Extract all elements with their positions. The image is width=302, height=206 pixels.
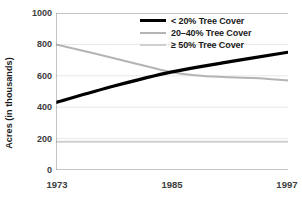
y-tick-label-0: 0	[18, 166, 52, 175]
series-lines	[56, 44, 288, 141]
legend-item-3: ≥ 50% Tree Cover	[140, 39, 272, 50]
y-tick-label-800: 800	[18, 40, 52, 49]
x-axis-tick-labels: 197319851997	[0, 180, 302, 196]
y-tick-label-400: 400	[18, 103, 52, 112]
x-tick-label-1985: 1985	[161, 180, 182, 190]
legend-line-lightgray-icon	[140, 44, 166, 46]
y-axis-tick-labels: 02004006008001000	[16, 0, 52, 206]
legend-line-gray-icon	[140, 32, 166, 34]
y-tick-label-600: 600	[18, 71, 52, 80]
x-tick-label-1973: 1973	[46, 180, 67, 190]
legend-item-2: 20–40% Tree Cover	[140, 27, 272, 38]
legend-item-1: < 20% Tree Cover	[140, 15, 272, 26]
y-tick-label-1000: 1000	[18, 9, 52, 18]
legend-label-1: < 20% Tree Cover	[171, 16, 244, 26]
legend-line-black-icon	[140, 19, 166, 22]
legend-label-3: ≥ 50% Tree Cover	[171, 40, 244, 50]
x-tick-label-1997: 1997	[276, 180, 297, 190]
y-tick-label-200: 200	[18, 134, 52, 143]
tree-cover-line-chart: Acres (in thousands) 02004006008001000 1…	[0, 0, 302, 206]
legend-label-2: 20–40% Tree Cover	[171, 28, 251, 38]
chart-legend: < 20% Tree Cover20–40% Tree Cover≥ 50% T…	[140, 15, 272, 51]
